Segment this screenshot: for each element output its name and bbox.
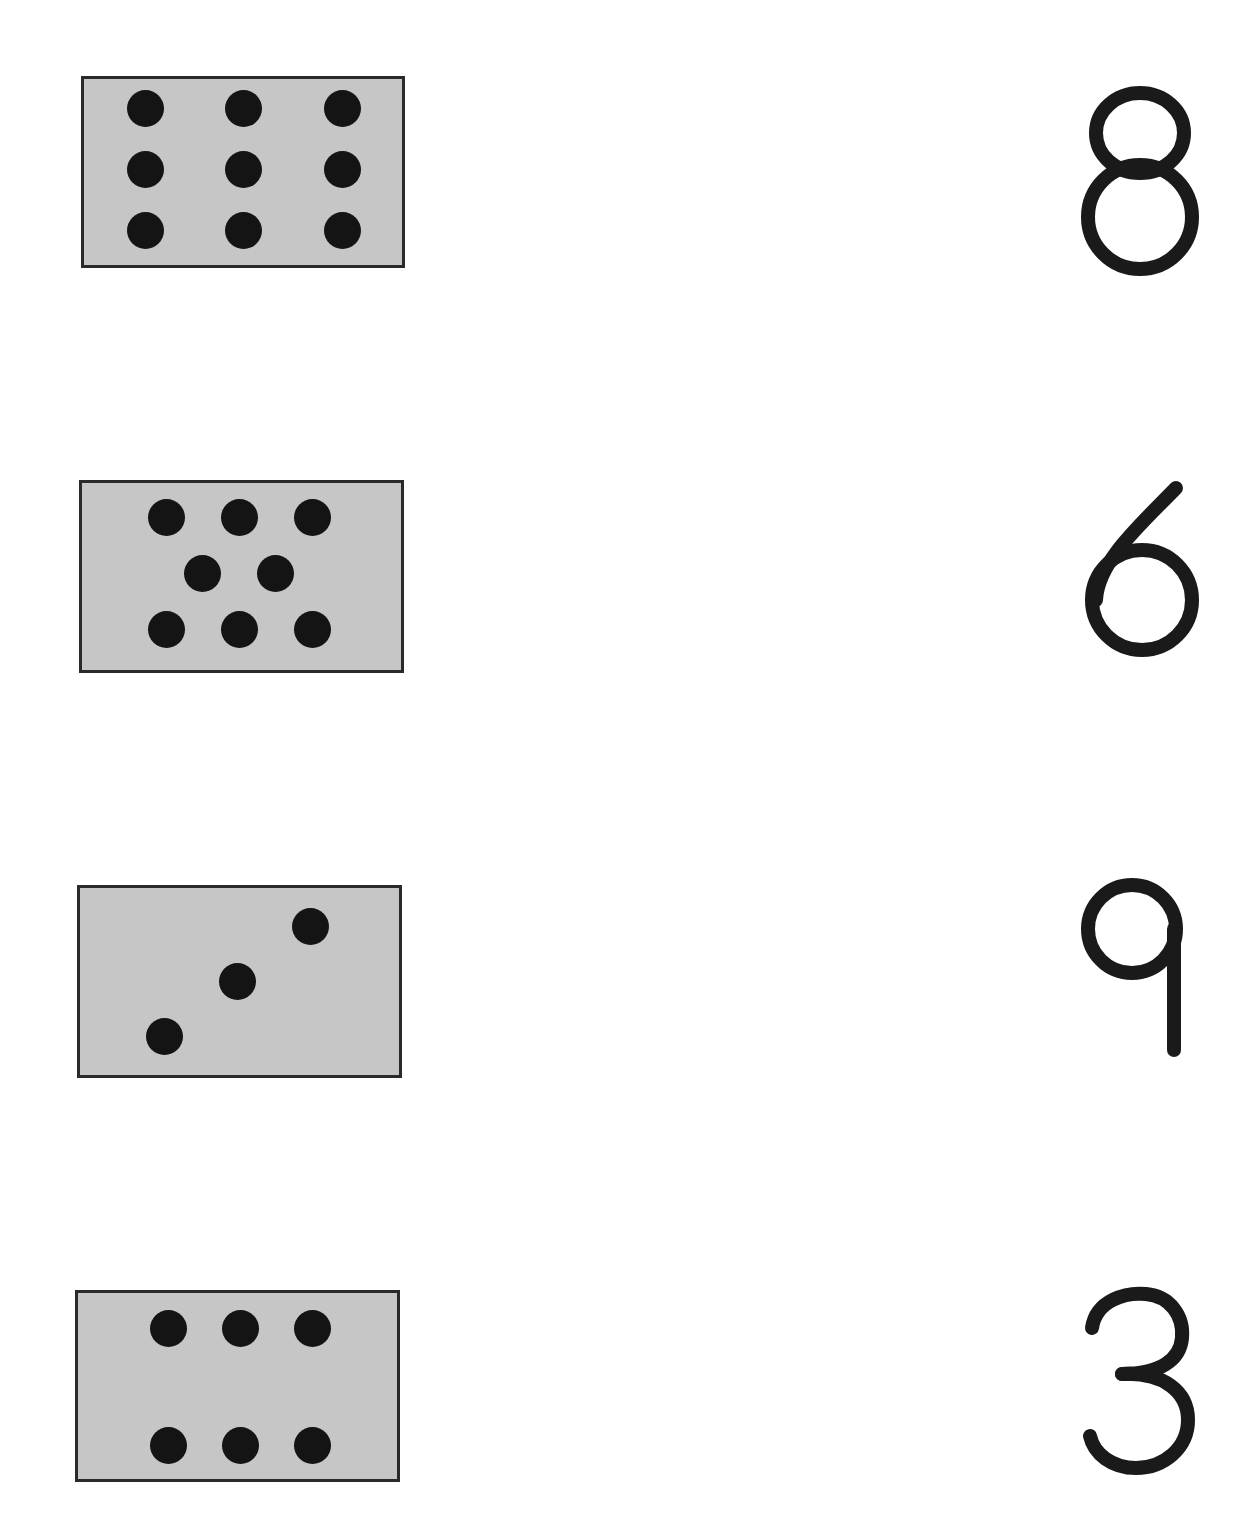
dot xyxy=(148,611,185,648)
dot xyxy=(225,151,262,188)
dot xyxy=(324,151,361,188)
numeral-eight-glyph xyxy=(1078,86,1208,278)
dot xyxy=(127,212,164,249)
dot xyxy=(127,151,164,188)
numeral-2: 6 xyxy=(1078,472,1208,664)
numeral-1: 8 xyxy=(1078,86,1208,278)
dot xyxy=(294,1310,331,1347)
dot xyxy=(324,212,361,249)
dot xyxy=(150,1310,187,1347)
dot xyxy=(222,1427,259,1464)
dot xyxy=(221,499,258,536)
dot xyxy=(225,90,262,127)
dot xyxy=(150,1427,187,1464)
dot xyxy=(294,499,331,536)
dot xyxy=(221,611,258,648)
dot xyxy=(219,963,256,1000)
dot xyxy=(148,499,185,536)
numeral-4: 3 xyxy=(1078,1288,1208,1480)
dot xyxy=(222,1310,259,1347)
dot xyxy=(146,1018,183,1055)
numeral-3: 9 xyxy=(1078,874,1208,1066)
dot xyxy=(184,555,221,592)
numeral-nine-glyph xyxy=(1078,874,1208,1066)
dot xyxy=(127,90,164,127)
dot xyxy=(292,908,329,945)
numeral-six-glyph xyxy=(1078,472,1208,664)
dot xyxy=(294,1427,331,1464)
dot xyxy=(294,611,331,648)
dot xyxy=(257,555,294,592)
dot xyxy=(324,90,361,127)
dot xyxy=(225,212,262,249)
numeral-three-glyph xyxy=(1078,1288,1208,1480)
